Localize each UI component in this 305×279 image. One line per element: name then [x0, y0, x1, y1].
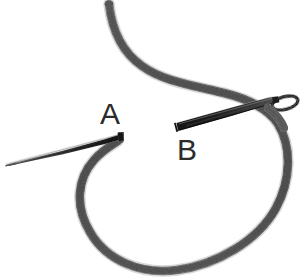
label-b: B — [177, 133, 197, 166]
label-a: A — [100, 97, 120, 130]
thread-top-end — [105, 1, 114, 7]
figure-root: A B — [0, 0, 305, 279]
diagram-canvas: A B — [0, 0, 305, 279]
